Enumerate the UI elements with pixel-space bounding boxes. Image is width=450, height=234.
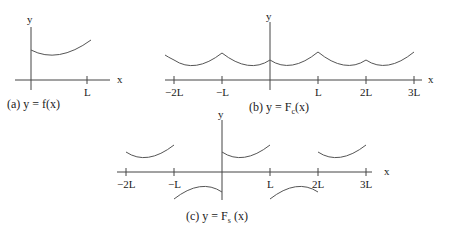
panel-a: y x L (a) y = f(x) <box>7 13 123 111</box>
x-axis-label: x <box>384 165 390 177</box>
extension-diagram: y x L (a) y = f(x) y x −2L −L L 2L 3L (b… <box>0 0 450 234</box>
panel-c: y x −2L −L L 2L 3L (c) y = Fs (x) <box>117 108 390 225</box>
tick-label--L: −L <box>216 86 229 98</box>
tick-label-L: L <box>84 86 91 98</box>
tick-label-2L: 2L <box>360 86 373 98</box>
tick-label--2L: −2L <box>117 178 136 190</box>
tick-label--L: −L <box>168 178 181 190</box>
curve-Fs-lower <box>174 186 318 199</box>
tick-label-L: L <box>267 178 274 190</box>
caption-b: (b) y = Fc(x) <box>249 100 309 116</box>
panel-b: y x −2L −L L 2L 3L (b) y = Fc(x) <box>165 10 434 116</box>
y-axis-label: y <box>27 13 33 25</box>
y-axis-label: y <box>266 10 272 22</box>
curve-Fc <box>174 52 414 66</box>
y-axis-label: y <box>218 108 224 120</box>
curve-f <box>31 40 91 55</box>
tick-label-3L: 3L <box>408 86 421 98</box>
curve-Fs-upper <box>126 145 366 158</box>
tick-label--2L: −2L <box>165 86 184 98</box>
curve-Fc-edge <box>165 55 174 60</box>
tick-label-L: L <box>315 86 322 98</box>
caption-c: (c) y = Fs (x) <box>186 209 248 225</box>
x-axis-label: x <box>428 73 434 85</box>
tick-label-2L: 2L <box>312 178 325 190</box>
caption-a: (a) y = f(x) <box>7 97 60 111</box>
tick-label-3L: 3L <box>360 178 373 190</box>
x-axis-label: x <box>117 73 123 85</box>
